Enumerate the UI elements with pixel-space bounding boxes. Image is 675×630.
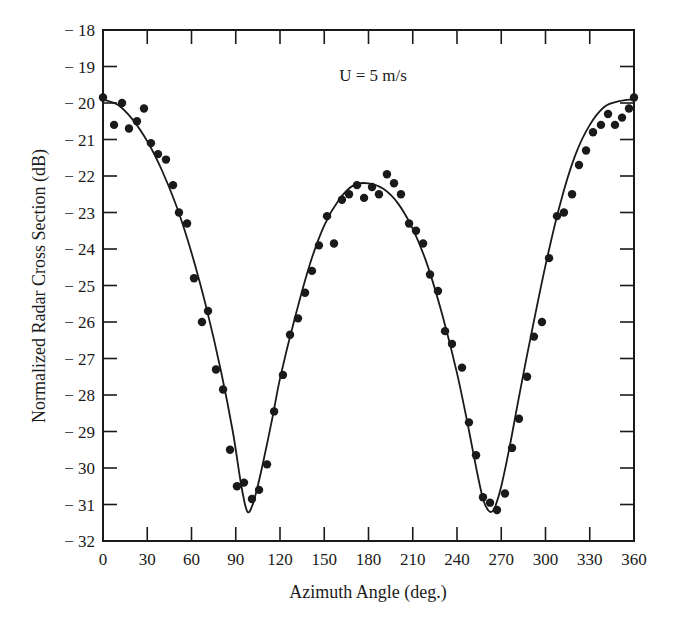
data-point	[294, 314, 302, 322]
data-point	[486, 498, 494, 506]
data-point	[589, 128, 597, 136]
data-point	[147, 139, 155, 147]
data-point	[575, 161, 583, 169]
data-point	[110, 121, 118, 129]
data-point	[255, 486, 263, 494]
x-tick-label: 0	[99, 550, 108, 569]
data-point	[248, 495, 256, 503]
x-tick-label: 150	[312, 550, 338, 569]
data-point	[604, 110, 612, 118]
x-axis-ticks: 0306090120150180210240270300330360	[99, 30, 647, 569]
data-point	[493, 506, 501, 514]
data-point	[368, 183, 376, 191]
data-point	[212, 365, 220, 373]
data-point	[397, 190, 405, 198]
data-point	[360, 194, 368, 202]
data-point	[479, 493, 487, 501]
data-point	[426, 270, 434, 278]
y-tick-label: − 18	[64, 21, 95, 40]
y-tick-label: − 19	[64, 58, 95, 77]
x-tick-label: 30	[139, 550, 156, 569]
data-point	[597, 121, 605, 129]
data-point	[405, 219, 413, 227]
data-point	[515, 415, 523, 423]
data-point	[140, 104, 148, 112]
data-point	[383, 170, 391, 178]
data-point	[523, 373, 531, 381]
y-tick-label: − 26	[64, 313, 95, 332]
data-point	[175, 208, 183, 216]
data-point	[390, 179, 398, 187]
model-fit-line	[103, 99, 634, 512]
wind-speed-annotation: U = 5 m/s	[339, 66, 407, 85]
data-point	[611, 121, 619, 129]
data-point	[508, 444, 516, 452]
y-tick-label: − 22	[64, 167, 95, 186]
y-tick-label: − 30	[64, 459, 95, 478]
data-point	[323, 212, 331, 220]
measured-data-points	[99, 93, 638, 514]
x-tick-label: 240	[444, 550, 470, 569]
data-point	[240, 478, 248, 486]
data-point	[169, 181, 177, 189]
data-point	[99, 93, 107, 101]
y-tick-label: − 20	[64, 94, 95, 113]
data-point	[133, 117, 141, 125]
data-point	[568, 190, 576, 198]
y-axis-title: Normalized Radar Cross Section (dB)	[29, 149, 50, 423]
data-point	[301, 289, 309, 297]
x-tick-label: 90	[227, 550, 244, 569]
data-point	[434, 287, 442, 295]
data-point	[560, 208, 568, 216]
data-point	[441, 327, 449, 335]
data-point	[618, 113, 626, 121]
y-tick-label: − 27	[64, 350, 95, 369]
data-point	[118, 99, 126, 107]
x-tick-label: 300	[533, 550, 559, 569]
y-tick-label: − 24	[64, 240, 95, 259]
data-point	[545, 254, 553, 262]
data-point	[448, 340, 456, 348]
y-tick-label: − 28	[64, 386, 95, 405]
x-axis-title: Azimuth Angle (deg.)	[289, 582, 446, 603]
data-point	[530, 332, 538, 340]
data-point	[472, 451, 480, 459]
data-point	[162, 155, 170, 163]
data-point	[286, 331, 294, 339]
data-point	[501, 489, 509, 497]
data-point	[375, 190, 383, 198]
y-tick-label: − 29	[64, 423, 95, 442]
data-point	[419, 239, 427, 247]
data-point	[263, 460, 271, 468]
data-point	[204, 307, 212, 315]
data-point	[190, 274, 198, 282]
data-point	[458, 363, 466, 371]
data-point	[353, 181, 361, 189]
data-point	[270, 407, 278, 415]
data-point	[233, 482, 241, 490]
data-point	[154, 150, 162, 158]
data-point	[308, 267, 316, 275]
data-point	[315, 241, 323, 249]
data-point	[412, 227, 420, 235]
data-point	[582, 146, 590, 154]
data-point	[330, 239, 338, 247]
x-tick-label: 270	[489, 550, 515, 569]
radar-cross-section-chart: 0306090120150180210240270300330360 − 18−…	[0, 0, 675, 630]
y-tick-label: − 21	[64, 131, 95, 150]
y-tick-label: − 25	[64, 277, 95, 296]
data-point	[465, 418, 473, 426]
y-tick-label: − 32	[64, 532, 95, 551]
data-point	[125, 124, 133, 132]
data-point	[226, 446, 234, 454]
data-point	[625, 104, 633, 112]
data-point	[279, 371, 287, 379]
y-axis-ticks: − 18− 19− 20− 21− 22− 23− 24− 25− 26− 27…	[64, 21, 634, 551]
data-point	[183, 219, 191, 227]
y-tick-label: − 31	[64, 496, 95, 515]
x-tick-label: 60	[183, 550, 200, 569]
plot-frame	[103, 30, 634, 541]
x-tick-label: 210	[400, 550, 426, 569]
data-point	[345, 190, 353, 198]
x-tick-label: 330	[577, 550, 603, 569]
